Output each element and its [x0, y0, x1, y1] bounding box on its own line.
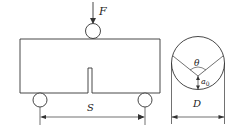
support-roller-left [33, 93, 47, 107]
notched-beam [20, 39, 160, 93]
load-label: F [98, 5, 107, 18]
diameter-label: D [192, 98, 201, 109]
support-roller-right [138, 93, 152, 107]
bending-test-diagram: F S θ a0 D [0, 0, 233, 130]
angle-label: θ [194, 58, 200, 68]
span-label: S [87, 102, 94, 113]
loading-roller [86, 24, 101, 39]
